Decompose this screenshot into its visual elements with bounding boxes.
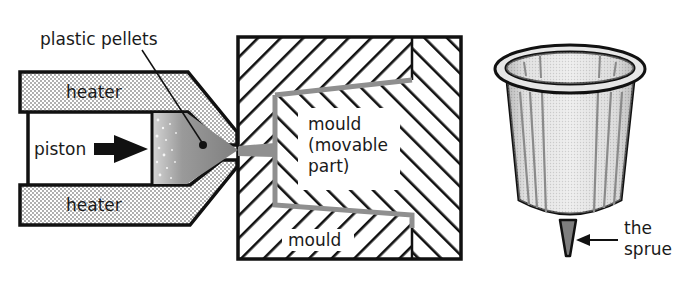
- label-sprue-line2: sprue: [624, 239, 672, 260]
- label-mould-fixed: mould: [288, 232, 341, 249]
- injection-unit: [20, 50, 238, 225]
- label-piston: piston: [34, 141, 86, 158]
- label-heater-top: heater: [66, 84, 122, 101]
- injection-moulding-diagram: plastic pellets heater piston heater mou…: [0, 0, 692, 289]
- label-mould-movable-line2: (movable: [308, 135, 388, 156]
- moulded-cup: [495, 45, 645, 256]
- label-plastic-pellets: plastic pellets: [40, 31, 158, 48]
- sprue: [560, 220, 576, 256]
- label-mould-movable: mould (movable part): [308, 114, 388, 177]
- label-heater-bottom: heater: [66, 197, 122, 214]
- label-mould-movable-line1: mould: [308, 114, 388, 135]
- label-mould-movable-line3: part): [308, 156, 388, 177]
- sprue-arrow-icon: [576, 234, 590, 246]
- label-sprue-line1: the: [624, 218, 672, 239]
- label-sprue: the sprue: [624, 218, 672, 260]
